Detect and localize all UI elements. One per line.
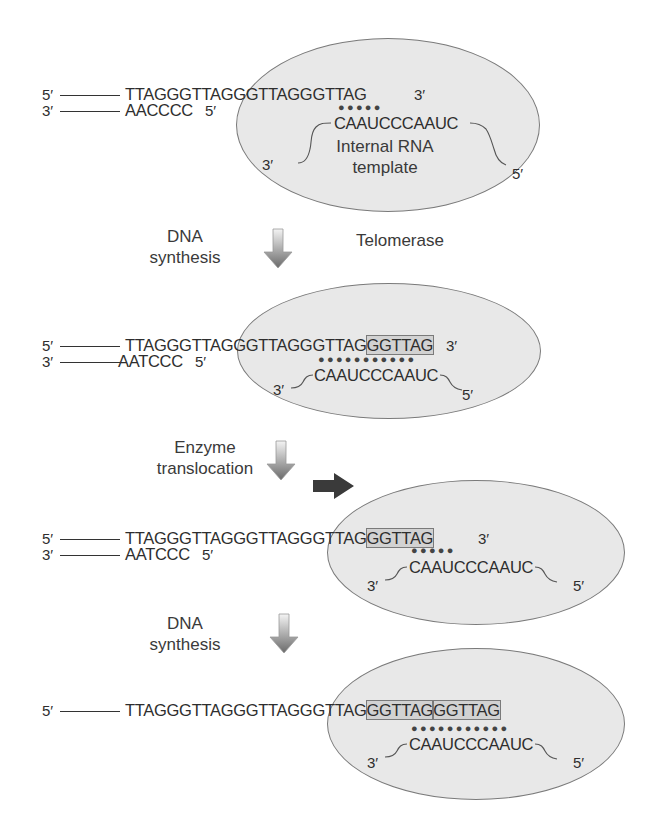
dna-backbone-line: [60, 346, 120, 347]
rna-template-label: Internal RNA template: [330, 136, 440, 178]
five-prime-label: 5′: [573, 755, 584, 770]
five-prime-label: 5′: [42, 338, 53, 353]
rna-strand-left-icon: [375, 739, 425, 769]
rna-template-sequence: CAAUCCCAAUC: [409, 736, 533, 753]
bottom-dna-strand: AATCCC: [118, 353, 183, 370]
dna-backbone-line: [60, 362, 120, 363]
new-repeat-highlight: GGTTAG: [367, 336, 434, 354]
five-prime-label: 5′: [573, 578, 584, 593]
step-label-enzyme-translocation: Enzyme translocation: [140, 437, 270, 479]
three-prime-label: 3′: [42, 103, 53, 118]
rna-template-sequence: CAAUCCCAAUC: [409, 559, 533, 576]
dna-backbone-line: [60, 95, 120, 96]
three-prime-label: 3′: [262, 157, 273, 172]
telomerase-label: Telomerase: [350, 230, 450, 251]
three-prime-label: 3′: [367, 755, 378, 770]
five-prime-label: 5′: [195, 354, 206, 369]
base-pair-dots: ●●●●●: [338, 102, 383, 113]
dna-backbone-line: [60, 555, 120, 556]
top-dna-strand: TTAGGGTTAGGGTTAGGGTTAGGGTTAGGGTTAG: [125, 702, 500, 719]
three-prime-label: 3′: [42, 547, 53, 562]
three-prime-label: 3′: [478, 531, 489, 546]
five-prime-label: 5′: [462, 387, 473, 402]
three-prime-label: 3′: [273, 382, 284, 397]
dna-backbone-line: [60, 111, 120, 112]
five-prime-label: 5′: [42, 703, 53, 718]
three-prime-label: 3′: [446, 338, 457, 353]
translocation-right-arrow-icon: [312, 472, 356, 502]
down-arrow-icon: [270, 613, 300, 657]
five-prime-label: 5′: [42, 531, 53, 546]
three-prime-label: 3′: [42, 354, 53, 369]
base-pair-dots: ●●●●●●●●●●●: [318, 354, 416, 365]
five-prime-label: 5′: [202, 547, 213, 562]
step-label-dna-synthesis: DNA synthesis: [135, 613, 235, 655]
dna-backbone-line: [60, 539, 120, 540]
three-prime-label: 3′: [367, 578, 378, 593]
down-arrow-icon: [267, 440, 297, 484]
dna-backbone-line: [60, 711, 120, 712]
bottom-dna-strand: AATCCC: [125, 546, 190, 563]
rna-strand-left-icon: [285, 370, 335, 400]
new-repeat-highlight-2: GGTTAG: [433, 701, 500, 719]
five-prime-label: 5′: [205, 103, 216, 118]
three-prime-label: 3′: [414, 87, 425, 102]
down-arrow-icon: [264, 228, 294, 272]
step-label-dna-synthesis: DNA synthesis: [135, 226, 235, 268]
five-prime-label: 5′: [42, 87, 53, 102]
new-repeat-highlight: GGTTAG: [367, 701, 434, 719]
base-pair-dots: ●●●●●: [411, 545, 456, 556]
rna-strand-left-icon: [375, 562, 425, 592]
telomerase-enzyme-3: [327, 480, 625, 625]
five-prime-label: 5′: [512, 166, 523, 181]
base-pair-dots: ●●●●●●●●●●●: [411, 723, 509, 734]
rna-strand-right-icon: [468, 115, 548, 175]
bottom-dna-strand: AACCCC: [125, 102, 193, 119]
